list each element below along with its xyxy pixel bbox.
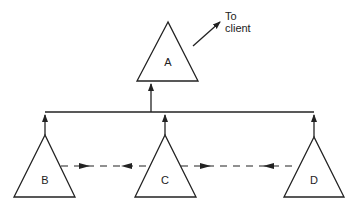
node-c-label: C (161, 174, 169, 186)
diagram-canvas: A To client B C D (0, 0, 361, 211)
triangle-d (284, 137, 344, 197)
to-client-label-line1: To (225, 10, 237, 22)
node-a: A (137, 22, 198, 81)
node-b-label: B (41, 174, 48, 186)
node-a-label: A (164, 56, 172, 68)
arrowhead-left-icon (121, 163, 132, 169)
to-client-arrow (193, 22, 220, 46)
to-client-label-line2: client (225, 22, 251, 34)
node-d-label: D (310, 174, 318, 186)
peer-link-c-d (181, 163, 298, 169)
arrowhead-right-icon (79, 163, 90, 169)
arrowhead-right-icon (200, 163, 211, 169)
hierarchy-diagram: A To client B C D (0, 0, 361, 211)
triangle-a (137, 22, 198, 81)
peer-link-b-c (61, 163, 150, 169)
arrowhead-left-icon (263, 163, 274, 169)
node-d: D (284, 137, 344, 197)
